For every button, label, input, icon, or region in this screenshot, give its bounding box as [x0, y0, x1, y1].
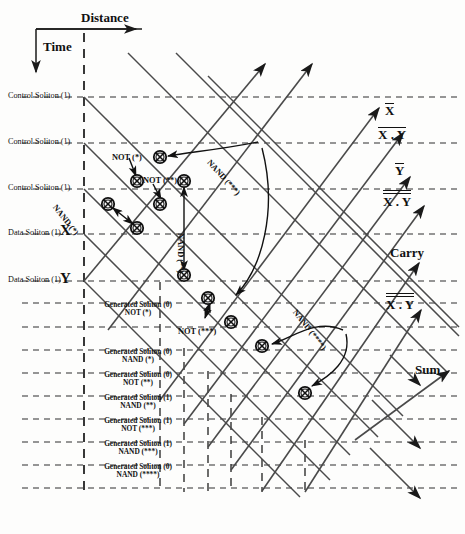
- downward-arrow: [370, 448, 420, 498]
- diagram-svg: [0, 0, 465, 534]
- soliton-output-arrow-ybar: [208, 177, 410, 447]
- collision-node: [131, 222, 143, 234]
- generated-soliton-operation: NAND (****): [88, 471, 188, 479]
- soliton-trajectory: [176, 53, 459, 336]
- nand-3star-curve-upper: [168, 142, 258, 156]
- overline-span: X: [385, 103, 394, 118]
- downward-output-arrows: [370, 355, 420, 498]
- operation-annotation: NOT (***): [178, 327, 216, 336]
- collision-node: [299, 387, 311, 399]
- output-label-y-bar: Y: [395, 163, 404, 179]
- generated-soliton-operation: NOT (**): [88, 379, 188, 387]
- left-axis-label: Data Soliton (1): [8, 228, 61, 237]
- output-label-x-bar: X: [385, 103, 394, 119]
- soliton-trajectory: [208, 76, 459, 327]
- generated-soliton-label: Generated Soliton (1)NAND (**): [88, 394, 188, 411]
- output-label-carry: Carry: [390, 245, 424, 261]
- generated-soliton-label: Generated Soliton (0)NAND (*): [88, 348, 188, 365]
- output-label-x-dot-y-dbl: X . Y: [386, 293, 414, 313]
- operation-annotation: NOT (**): [143, 176, 177, 185]
- output-label-sum: Sum: [415, 362, 440, 378]
- generated-soliton-operation: NOT (***): [88, 425, 188, 433]
- collision-node: [131, 175, 143, 187]
- collision-node: [178, 175, 190, 187]
- left-axis-label: Control Soliton (1): [8, 183, 70, 192]
- collision-node: [154, 151, 166, 163]
- generated-soliton-label: Generated Soliton (0)NAND (****): [88, 463, 188, 480]
- downward-arrow: [372, 400, 420, 448]
- generated-soliton-operation: NOT (*): [88, 309, 188, 317]
- collision-node: [225, 316, 237, 328]
- overline-span: X . Y: [378, 127, 406, 142]
- left-axis-label: Control Soliton (1): [8, 137, 70, 146]
- collision-node: [256, 340, 268, 352]
- generated-soliton-label: Generated Soliton (0)NOT (**): [88, 371, 188, 388]
- output-label-x-dbl-dot-y: X . Y: [383, 190, 411, 210]
- collision-node: [102, 198, 114, 210]
- operation-annotation: NOT (*): [112, 153, 142, 162]
- time-axis-label: Time: [43, 39, 72, 55]
- overline-inner-span: X . Y: [386, 296, 414, 312]
- operation-annotation: NAND (**): [176, 233, 185, 273]
- nand-3star-curve-lower: [236, 148, 268, 295]
- generated-soliton-operation: NAND (*): [88, 356, 188, 364]
- overline-inner-span: X . Y: [383, 193, 411, 209]
- generated-soliton-label: Generated Soliton (0)NOT (*): [88, 301, 188, 318]
- collision-node: [202, 292, 214, 304]
- distance-axis-label: Distance: [81, 10, 129, 26]
- overline-outer-span: X . Y: [386, 293, 414, 313]
- overline-span: Y: [395, 163, 404, 178]
- input-soliton-marker-y: Y: [60, 270, 71, 287]
- generated-soliton-operation: NAND (***): [88, 448, 188, 456]
- generated-soliton-label: Generated Soliton (1)NAND (***): [88, 440, 188, 457]
- diagram-canvas: Distance Time Control Soliton (1)Control…: [0, 0, 465, 534]
- left-axis-label: Control Soliton (1): [8, 91, 70, 100]
- generated-soliton-operation: NAND (**): [88, 402, 188, 410]
- output-label-x-bar-dot-y-bar: X . Y: [378, 127, 406, 143]
- collision-node: [154, 198, 166, 210]
- left-axis-label: Data Soliton (1): [8, 275, 61, 284]
- generated-soliton-label: Generated Soliton (1)NOT (***): [88, 417, 188, 434]
- overline-outer-span: X . Y: [383, 190, 411, 210]
